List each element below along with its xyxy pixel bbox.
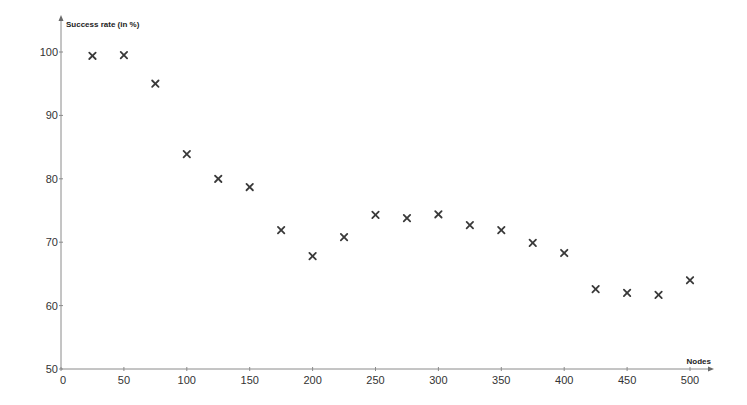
data-point xyxy=(89,53,95,59)
data-point xyxy=(278,227,284,233)
data-point xyxy=(152,81,158,87)
x-tick-label: 400 xyxy=(555,374,573,386)
y-tick-label: 60 xyxy=(46,300,58,312)
data-point xyxy=(372,212,378,218)
data-point xyxy=(435,211,441,217)
data-point xyxy=(341,234,347,240)
data-point xyxy=(592,286,598,292)
y-tick-label: 90 xyxy=(46,109,58,121)
y-tick-label: 50 xyxy=(46,363,58,375)
axes: Nodes Success rate (in %) xyxy=(59,15,715,372)
data-point xyxy=(498,227,504,233)
data-point xyxy=(184,151,190,157)
data-point xyxy=(687,277,693,283)
x-axis-arrow-icon xyxy=(708,367,714,372)
y-axis-title: Success rate (in %) xyxy=(66,20,140,29)
data-point xyxy=(404,215,410,221)
y-ticks: 5060708090100 xyxy=(40,46,63,375)
x-tick-label: 450 xyxy=(618,374,636,386)
x-tick-label: 0 xyxy=(60,374,66,386)
x-ticks: 050100150200250300350400450500 xyxy=(60,367,699,386)
x-tick-label: 350 xyxy=(492,374,510,386)
scatter-chart: Nodes Success rate (in %) 05010015020025… xyxy=(0,0,747,405)
data-point xyxy=(215,176,221,182)
x-tick-label: 500 xyxy=(681,374,699,386)
x-tick-label: 100 xyxy=(178,374,196,386)
x-tick-label: 50 xyxy=(118,374,130,386)
data-point xyxy=(655,292,661,298)
x-tick-label: 300 xyxy=(429,374,447,386)
y-tick-label: 80 xyxy=(46,173,58,185)
x-tick-label: 250 xyxy=(366,374,384,386)
data-point xyxy=(561,250,567,256)
data-point xyxy=(247,184,253,190)
x-tick-label: 150 xyxy=(241,374,259,386)
x-axis-title: Nodes xyxy=(687,357,712,366)
data-point xyxy=(624,290,630,296)
y-tick-label: 100 xyxy=(40,46,58,58)
data-point xyxy=(309,253,315,259)
y-tick-label: 70 xyxy=(46,236,58,248)
data-point xyxy=(530,240,536,246)
data-points xyxy=(89,52,693,298)
x-tick-label: 200 xyxy=(303,374,321,386)
y-axis-arrow-icon xyxy=(59,15,64,21)
data-point xyxy=(121,52,127,58)
data-point xyxy=(467,222,473,228)
